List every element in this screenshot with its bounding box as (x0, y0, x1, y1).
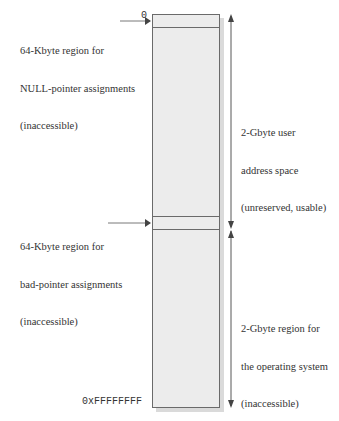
os-region-span-arrow (228, 230, 234, 408)
user-space-span-arrow (228, 14, 234, 229)
arrows-overlay (0, 0, 339, 421)
